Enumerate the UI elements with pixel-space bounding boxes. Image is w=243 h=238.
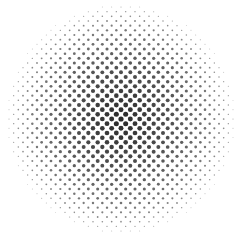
halftone-dot-pattern [0, 0, 243, 238]
